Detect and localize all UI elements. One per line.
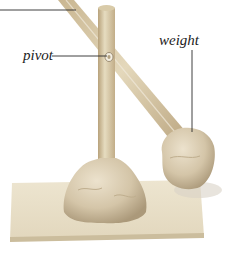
pivot-label: pivot xyxy=(23,48,53,63)
stand-post xyxy=(98,5,115,168)
pivot-pin xyxy=(105,53,113,62)
clay-weight xyxy=(162,128,215,190)
clay-base xyxy=(64,158,147,223)
pendulum-arm xyxy=(58,0,186,142)
weight-label: weight xyxy=(159,33,199,48)
pendulum-figure: pivot weight xyxy=(0,0,227,253)
